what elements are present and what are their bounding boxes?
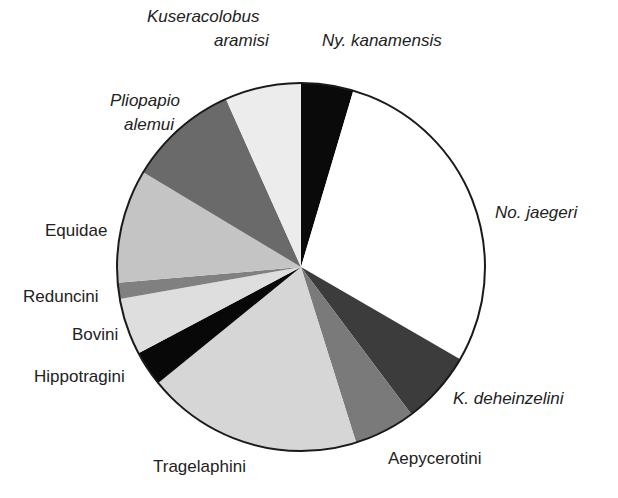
label-reduncini: Reduncini bbox=[23, 286, 99, 307]
label-kuseracolobus-line1: Kuseracolobus bbox=[147, 6, 259, 27]
label-pliopapio-line1: Pliopapio bbox=[110, 90, 180, 111]
label-pliopapio-line2: alemui bbox=[124, 114, 174, 135]
label-equidae: Equidae bbox=[45, 220, 107, 241]
label-bovini: Bovini bbox=[72, 324, 118, 345]
label-aepycerotini: Aepycerotini bbox=[388, 448, 482, 469]
label-hippotragini: Hippotragini bbox=[34, 366, 125, 387]
label-kuseracolobus-line2: aramisi bbox=[214, 30, 269, 51]
pie-chart bbox=[0, 0, 618, 498]
label-no-jaegeri: No. jaegeri bbox=[495, 202, 577, 223]
label-ny-kanamensis: Ny. kanamensis bbox=[322, 30, 442, 51]
label-k-deheinzelini: K. deheinzelini bbox=[453, 388, 564, 409]
label-tragelaphini: Tragelaphini bbox=[153, 456, 246, 477]
